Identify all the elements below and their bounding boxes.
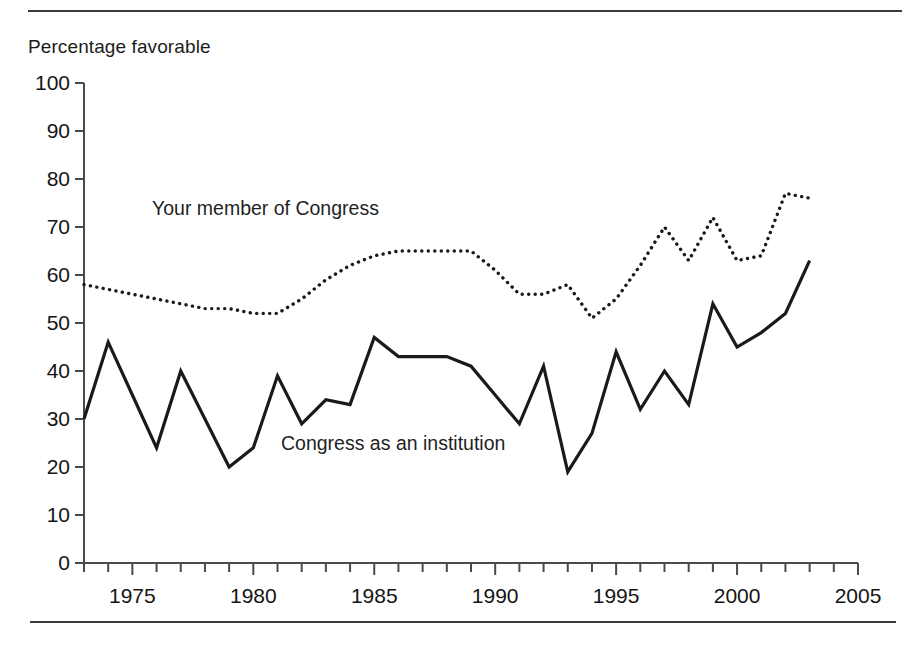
y-axis-tick-label: 50	[18, 312, 70, 333]
y-axis-ticks	[75, 83, 84, 563]
x-axis-tick-label: 1985	[329, 585, 419, 606]
x-axis-tick-label: 1975	[87, 585, 177, 606]
y-axis-tick-label: 60	[18, 264, 70, 285]
y-axis-tick-label: 20	[18, 456, 70, 477]
y-axis-tick-label: 0	[18, 552, 70, 573]
series-label-your-member-of-congress: Your member of Congress	[152, 197, 379, 220]
x-axis-tick-label: 1990	[450, 585, 540, 606]
series-label-congress-as-an-institution: Congress as an institution	[281, 432, 505, 455]
x-axis-tick-label: 1995	[571, 585, 661, 606]
figure-container: Percentage favorable 0102030405060708090…	[0, 0, 912, 646]
x-axis-tick-label: 1980	[208, 585, 298, 606]
y-axis-tick-label: 70	[18, 216, 70, 237]
x-axis-tick-label: 2000	[692, 585, 782, 606]
y-axis-tick-label: 80	[18, 168, 70, 189]
y-axis-tick-label: 100	[18, 72, 70, 93]
y-axis-tick-label: 90	[18, 120, 70, 141]
chart-axes	[84, 83, 858, 563]
x-axis-tick-label: 2005	[813, 585, 903, 606]
y-axis-tick-label: 30	[18, 408, 70, 429]
line-chart	[0, 0, 912, 646]
y-axis-tick-label: 10	[18, 504, 70, 525]
y-axis-tick-label: 40	[18, 360, 70, 381]
chart-series	[84, 193, 810, 471]
x-axis-ticks	[84, 563, 858, 575]
